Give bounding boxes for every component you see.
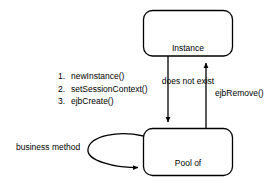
- list-item-label: ejbCreate(): [71, 96, 114, 106]
- list-item-number: 2.: [58, 83, 71, 96]
- edge-label-ejb-remove: ejbRemove(): [215, 88, 264, 99]
- list-item-number: 3.: [58, 95, 71, 108]
- diagram-canvas: Instance does not exist Pool of method-r…: [0, 0, 280, 186]
- list-item-number: 1.: [58, 70, 71, 83]
- list-item: 1.newInstance(): [58, 70, 148, 83]
- list-item: 2.setSessionContext(): [58, 83, 148, 96]
- list-item-label: setSessionContext(): [71, 84, 148, 94]
- business-method-self-loop-arrow: [88, 134, 144, 168]
- state-box-instance-does-not-exist: [144, 11, 233, 57]
- transition-step-list: 1.newInstance() 2.setSessionContext() 3.…: [58, 70, 148, 108]
- list-item: 3.ejbCreate(): [58, 95, 148, 108]
- state-box-pool-of-method-ready-instances: [144, 129, 233, 176]
- edge-label-business-method: business method: [16, 142, 80, 153]
- list-item-label: newInstance(): [71, 71, 124, 81]
